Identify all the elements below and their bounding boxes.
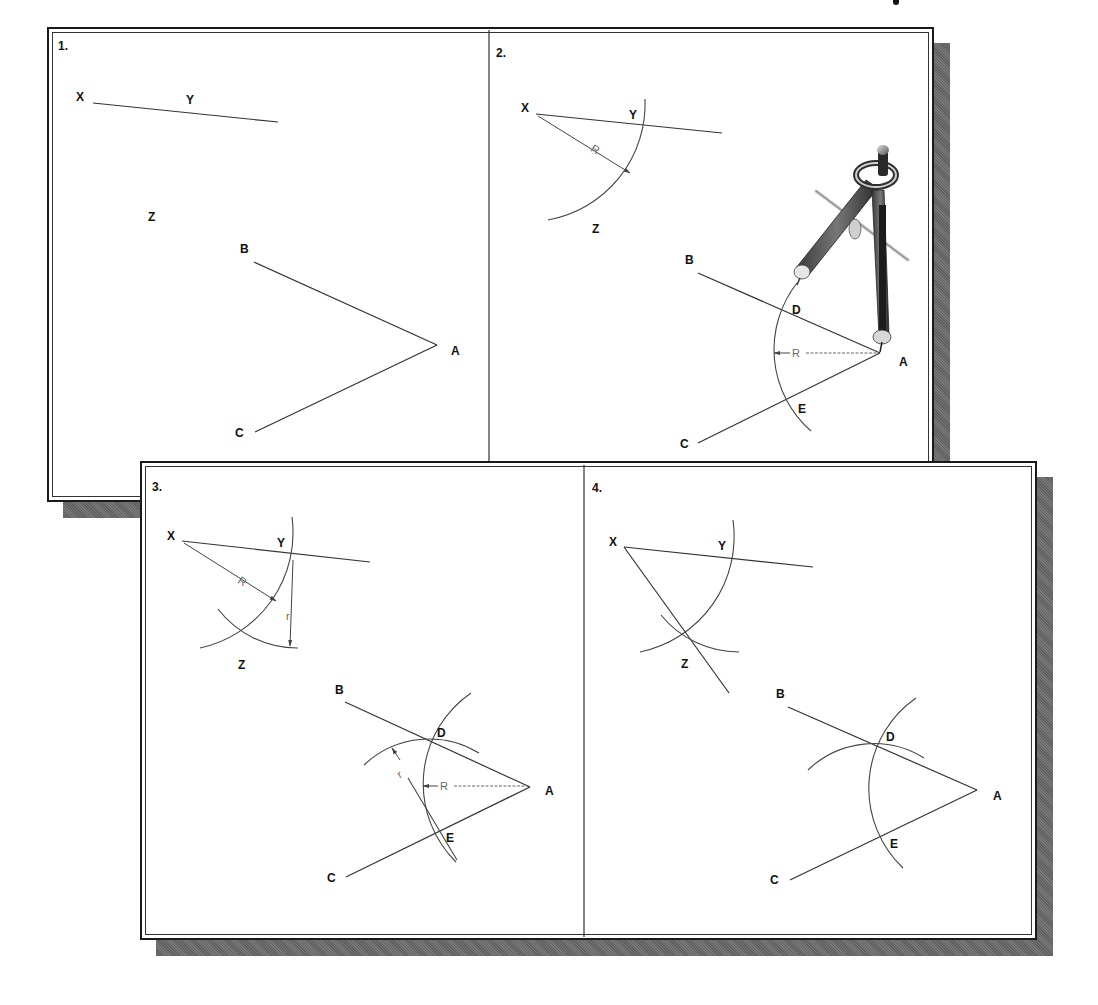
- point-label-a: A: [451, 344, 460, 358]
- point-label-x: X: [609, 535, 617, 549]
- point-label-c: C: [770, 873, 779, 887]
- line-ab: [698, 273, 880, 353]
- point-label-c: C: [327, 871, 336, 885]
- step-label: 2.: [496, 46, 506, 60]
- point-label-c: C: [680, 437, 689, 451]
- point-label-b: B: [240, 242, 249, 256]
- panel-4: 4. X Y Z B A C D E: [592, 481, 1002, 887]
- construction-line-r: [408, 778, 457, 860]
- step-label: 4.: [592, 481, 602, 495]
- point-label-e: E: [798, 402, 806, 416]
- line-xy: [182, 541, 370, 562]
- line-xz-transferred-angle: [624, 547, 729, 693]
- point-label-b: B: [776, 687, 785, 701]
- line-ac: [346, 787, 530, 877]
- point-label-c: C: [235, 426, 244, 440]
- step-label: 1.: [58, 39, 68, 53]
- point-label-a: A: [993, 789, 1002, 803]
- dimension-arrow-r-small: [290, 560, 293, 646]
- point-label-z: Z: [238, 658, 245, 672]
- arc-radius-r-from-d: [808, 744, 924, 770]
- point-label-b: B: [685, 253, 694, 267]
- panel-1: 1. X Y Z B A C: [58, 30, 489, 500]
- point-label-x: X: [521, 101, 529, 115]
- point-label-x: X: [76, 90, 84, 104]
- dimension-label-r-small: r: [286, 610, 290, 622]
- step-label: 3.: [152, 480, 162, 494]
- line-ab: [788, 707, 977, 790]
- dimension-label-r-small: r: [395, 768, 404, 780]
- panel-3: 3. X Y R r Z B A C r D E R: [152, 465, 584, 937]
- point-label-y: Y: [277, 536, 285, 550]
- panel-2: 2. X Y R Z B A C D E R: [496, 46, 908, 451]
- point-label-d: D: [437, 726, 446, 740]
- point-label-e: E: [890, 837, 898, 851]
- point-label-e: E: [446, 831, 454, 845]
- dimension-arrow-r: [538, 116, 630, 173]
- point-label-z: Z: [148, 210, 155, 224]
- point-label-a: A: [545, 784, 554, 798]
- point-label-d: D: [886, 730, 895, 744]
- line-ac: [790, 790, 977, 880]
- point-label-z: Z: [592, 222, 599, 236]
- line-ac: [255, 345, 437, 432]
- arc-radius-r-small: [661, 615, 739, 652]
- line-ab: [254, 262, 437, 345]
- arc-radius-r-from-d: [364, 739, 479, 765]
- point-label-x: X: [167, 529, 175, 543]
- point-label-y: Y: [186, 93, 194, 107]
- point-label-y: Y: [629, 108, 637, 122]
- dimension-arrow-r-small: [392, 748, 400, 760]
- construction-canvas: 1. X Y Z B A C 2. X Y R Z B A C D E R: [0, 0, 1098, 1005]
- dimension-label-r: R: [440, 780, 448, 792]
- line-ab: [345, 702, 530, 787]
- dimension-label-r: R: [792, 347, 800, 359]
- dimension-label-r: R: [236, 574, 249, 588]
- point-label-d: D: [792, 303, 801, 317]
- point-label-z: Z: [681, 657, 688, 671]
- point-label-a: A: [899, 355, 908, 369]
- point-label-y: Y: [718, 539, 726, 553]
- dimension-arrow-r: [184, 543, 276, 601]
- line-ac: [698, 353, 880, 443]
- compass-icon: [794, 145, 908, 352]
- point-label-b: B: [335, 683, 344, 697]
